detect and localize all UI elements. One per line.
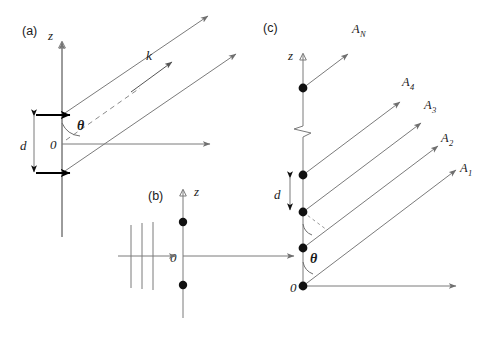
- panel-c-tag: (c): [263, 21, 278, 35]
- panel-c-theta-arc-upper: [303, 224, 312, 235]
- panel-a-origin-label: 0: [50, 137, 57, 152]
- panel-b-scatterer-dot-lower: [179, 281, 187, 289]
- panel-b-scatterer-dot-upper: [179, 218, 187, 226]
- panel-a-theta-label: θ: [77, 118, 85, 133]
- panel-c-ray-4: [303, 102, 400, 175]
- panel-a-d-label: d: [20, 138, 27, 153]
- panel-c-amplitude-label-3: A 3: [423, 98, 436, 115]
- amplitude-letter-4: A: [401, 75, 410, 89]
- panel-c-ray-1: [303, 170, 456, 286]
- panel-c-axis-break-icon: [294, 126, 311, 137]
- amplitude-subscript-4: 4: [410, 82, 415, 92]
- panel-c-amplitude-label-1: A 1: [459, 161, 472, 178]
- panel-a-tag: (a): [22, 24, 37, 38]
- panel-c-scatterer-dot-3: [299, 208, 308, 217]
- panel-c-path-difference-dashed: [303, 212, 327, 230]
- panel-a-ray-lower: [62, 54, 236, 173]
- panel-c-z-label: z: [287, 48, 293, 63]
- panel-a-z-label: z: [47, 28, 53, 43]
- panel-a-ray-upper: [62, 16, 208, 115]
- amplitude-letter-3: A: [423, 98, 432, 112]
- amplitude-subscript-2: 2: [449, 138, 454, 148]
- amplitude-letter-1: A: [459, 161, 468, 175]
- panel-a-k-label: k: [146, 48, 153, 63]
- panel-b-tag: (b): [148, 189, 163, 203]
- diffraction-figure: (a) z 0 k θ d: [0, 0, 485, 348]
- panel-c-origin-label: 0: [290, 280, 297, 295]
- panel-c: (c) z 0 θ d: [263, 21, 472, 295]
- panel-b-origin-label: 0: [170, 250, 177, 265]
- amplitude-letter-2: A: [440, 131, 449, 145]
- panel-c-scatterer-dot-2: [299, 244, 308, 253]
- amplitude-subscript-N: N: [359, 29, 367, 39]
- panel-c-amplitude-label-4: A 4: [401, 75, 415, 92]
- figure-container: (a) z 0 k θ d: [0, 0, 485, 348]
- panel-b-z-label: z: [193, 184, 199, 199]
- amplitude-subscript-3: 3: [431, 105, 436, 115]
- panel-c-ray-3: [303, 123, 421, 212]
- panel-a-k-vector-arrow: [131, 62, 172, 92]
- amplitude-subscript-1: 1: [468, 168, 472, 178]
- panel-c-d-label: d: [274, 187, 281, 202]
- panel-a: (a) z 0 k θ d: [20, 16, 236, 237]
- panel-c-theta-label: θ: [310, 251, 318, 266]
- panel-c-amplitude-label-2: A 2: [440, 131, 454, 148]
- panel-c-amplitude-label-N: A N: [351, 22, 367, 39]
- panel-c-scatterer-dot-1: [299, 282, 308, 291]
- panel-c-ray-N: [303, 54, 348, 88]
- panel-c-scatterer-dot-N: [299, 84, 308, 93]
- panel-b: (b) z 0: [118, 184, 294, 318]
- panel-c-scatterer-dot-4: [299, 171, 308, 180]
- amplitude-letter-N: A: [351, 22, 360, 36]
